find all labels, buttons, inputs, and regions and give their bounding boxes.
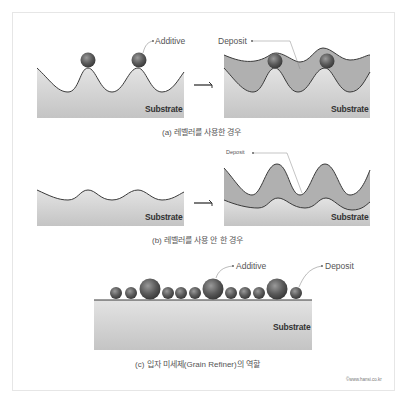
substrate-label: Substrate	[145, 104, 182, 114]
substrate-label: Substrate	[331, 104, 368, 114]
arrow-icon	[194, 200, 212, 206]
arrow-icon	[194, 82, 212, 88]
substrate-label: Substrate	[331, 212, 368, 222]
deposit-label: Deposit	[226, 149, 245, 155]
deposit-label: Deposit	[218, 36, 247, 46]
diagram-canvas	[0, 0, 407, 400]
additive-label: Additive	[236, 261, 266, 271]
additive-sphere	[81, 53, 96, 68]
substrate-label: Substrate	[273, 322, 310, 332]
additive-sphere	[132, 53, 147, 68]
additive-label: Additive	[155, 36, 185, 46]
caption-c: (c) 입자 미세제(Grain Refiner)의 역할	[135, 358, 260, 369]
deposit-label: Deposit	[325, 261, 354, 271]
caption-b: (b) 레벨러를 사용 안 한 경우	[152, 234, 243, 245]
caption-a: (a) 레벨러를 사용한 경우	[162, 126, 241, 137]
panel-c	[94, 265, 323, 350]
copyright: ©www.hansi.co.kr	[346, 377, 382, 382]
substrate-label: Substrate	[145, 212, 182, 222]
